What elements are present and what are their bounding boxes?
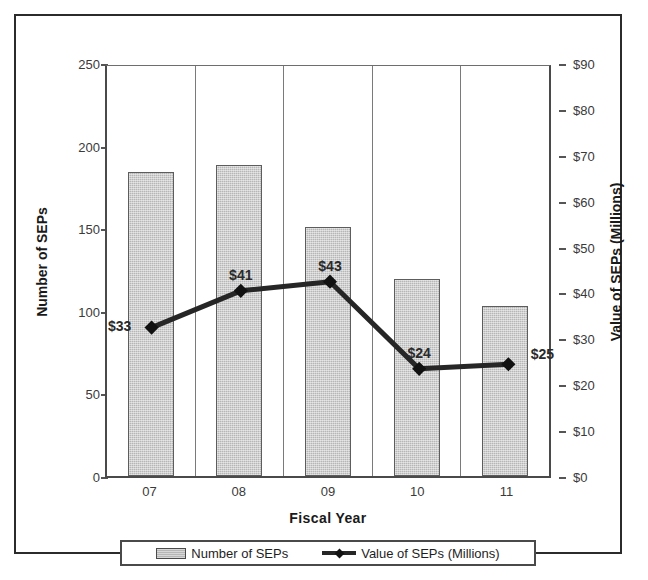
figure-frame: Number of SEPs Value of SEPs (Millions) … [14, 14, 622, 554]
x-tick-label: 11 [462, 484, 551, 499]
plot-area: $33$41$43$24$25 [105, 65, 551, 478]
left-axis-title: Number of SEPs [34, 162, 50, 362]
line-point-value-label: $25 [531, 346, 554, 362]
right-axis-ticks: $0$10$20$30$40$50$60$70$80$90 [559, 16, 609, 580]
right-tick-mark [559, 477, 566, 479]
line-data-point-marker[interactable] [145, 320, 159, 334]
line-point-value-label: $43 [318, 258, 341, 274]
line-point-value-label: $24 [408, 345, 431, 361]
right-axis-title: Value of SEPs (Millions) [608, 162, 624, 362]
x-axis-tick-labels: 0708091011 [105, 484, 551, 499]
bar-swatch-icon [156, 548, 186, 559]
left-tick-label: 200 [78, 141, 100, 154]
left-tick-label: 50 [86, 388, 100, 401]
x-tick-label: 08 [194, 484, 283, 499]
x-tick-label: 07 [105, 484, 194, 499]
right-tick-mark [559, 431, 566, 433]
legend-item-number-of-seps: Number of SEPs [156, 546, 288, 561]
right-tick-mark [559, 156, 566, 158]
right-tick-label: $10 [573, 425, 595, 438]
x-tick-label: 10 [373, 484, 462, 499]
right-tick-mark [559, 64, 566, 66]
legend-item-value-of-seps: Value of SEPs (Millions) [322, 546, 499, 561]
right-tick-mark [559, 248, 566, 250]
right-tick-label: $0 [573, 471, 587, 484]
legend-label: Number of SEPs [191, 546, 288, 561]
right-tick-mark [559, 110, 566, 112]
right-tick-label: $80 [573, 104, 595, 117]
right-tick-label: $60 [573, 196, 595, 209]
x-tick-label: 09 [283, 484, 372, 499]
line-point-value-label: $41 [229, 267, 252, 283]
left-axis-ticks: 050100150200250 [56, 16, 100, 580]
right-tick-mark [559, 202, 566, 204]
left-tick-label: 150 [78, 223, 100, 236]
right-tick-label: $20 [573, 379, 595, 392]
line-point-value-label: $33 [108, 318, 131, 334]
right-tick-mark [559, 293, 566, 295]
right-tick-label: $70 [573, 150, 595, 163]
legend-label: Value of SEPs (Millions) [361, 546, 499, 561]
right-tick-label: $30 [573, 333, 595, 346]
left-tick-label: 250 [78, 58, 100, 71]
right-tick-label: $90 [573, 58, 595, 71]
right-tick-mark [559, 385, 566, 387]
line-diamond-swatch-icon [322, 547, 356, 559]
left-tick-label: 100 [78, 306, 100, 319]
right-tick-label: $40 [573, 287, 595, 300]
chart-legend: Number of SEPs Value of SEPs (Millions) [120, 540, 536, 566]
right-tick-label: $50 [573, 242, 595, 255]
line-data-point-marker[interactable] [501, 357, 515, 371]
line-data-point-marker[interactable] [234, 284, 248, 298]
line-path [152, 282, 509, 369]
right-tick-mark [559, 339, 566, 341]
left-tick-label: 0 [93, 471, 100, 484]
x-axis-title: Fiscal Year [105, 510, 551, 526]
